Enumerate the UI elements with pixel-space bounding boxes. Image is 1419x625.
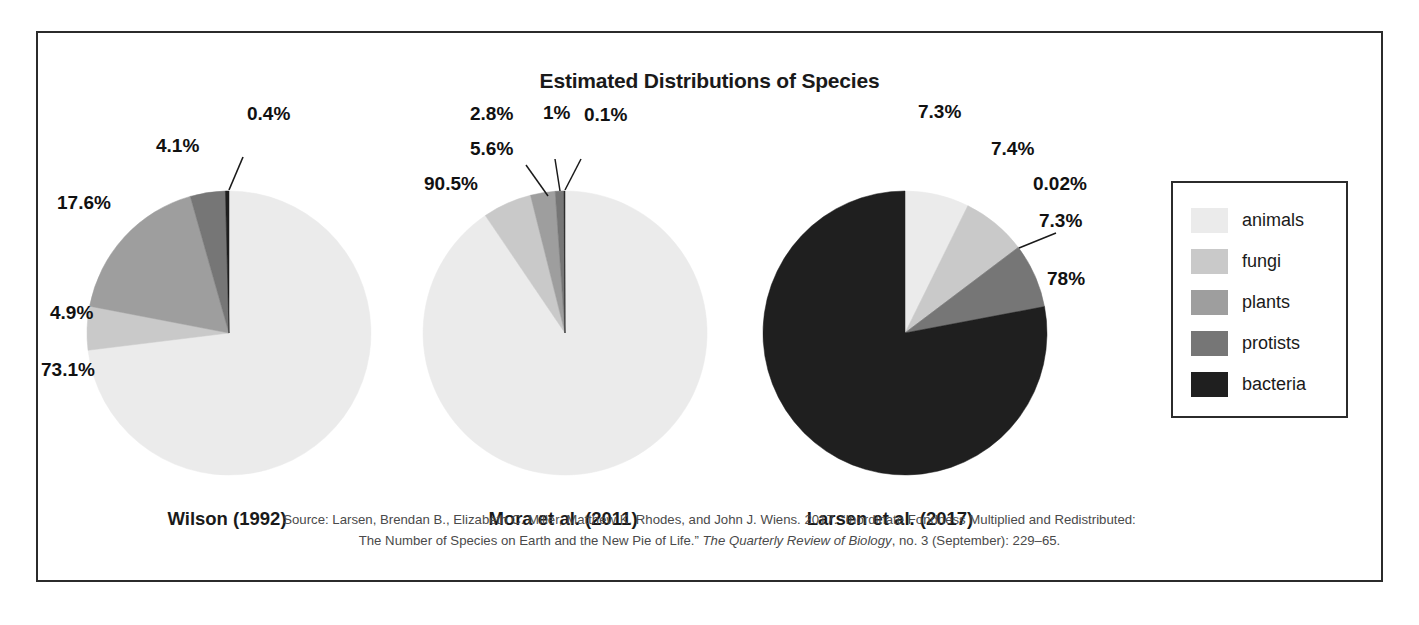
slice-label-protists: 4.1% (156, 135, 199, 157)
source-note: Source: Larsen, Brendan B., Elizabeth C.… (38, 509, 1381, 551)
slice-label-plants: 17.6% (57, 192, 111, 214)
source-note-journal: The Quarterly Review of Biology (703, 533, 892, 548)
legend-swatch-bacteria (1191, 372, 1228, 397)
legend-item-fungi[interactable]: fungi (1191, 241, 1346, 282)
source-note-line2-pre: The Number of Species on Earth and the N… (359, 533, 703, 548)
pie-chart-wilson (62, 93, 392, 503)
slice-label-bacteria: 0.4% (247, 103, 290, 125)
pie-chart-mora (398, 93, 728, 503)
source-note-line2-post: , no. 3 (September): 229–65. (892, 533, 1061, 548)
slice-label-protists: 1% (543, 102, 570, 124)
legend-label-protists: protists (1242, 333, 1300, 354)
slice-label-fungi: 5.6% (470, 138, 513, 160)
slice-label-animals: 73.1% (41, 359, 95, 381)
page-title: Estimated Distributions of Species (38, 69, 1381, 93)
slice-label-bacteria: 78% (1047, 268, 1085, 290)
leader-line-protists (555, 159, 560, 191)
legend-label-fungi: fungi (1242, 251, 1281, 272)
pie-panel-wilson: 0.4% 4.1% 17.6% 4.9% 73.1% Wilson (1992) (62, 93, 392, 538)
source-note-line1: Source: Larsen, Brendan B., Elizabeth C.… (38, 509, 1381, 530)
legend: animals fungi plants protists bacteria (1171, 181, 1348, 418)
legend-swatch-fungi (1191, 249, 1228, 274)
leader-line-plants (526, 165, 548, 196)
source-note-line2: The Number of Species on Earth and the N… (38, 530, 1381, 551)
legend-label-animals: animals (1242, 210, 1304, 231)
pie-panel-larsen: 7.3% 7.4% 0.02% 7.3% 78% Larsen et al. (… (738, 93, 1118, 538)
legend-item-plants[interactable]: plants (1191, 282, 1346, 323)
slice-label-protists: 7.3% (1039, 210, 1082, 232)
slice-label-fungi: 7.4% (991, 138, 1034, 160)
slice-label-fungi: 4.9% (50, 302, 93, 324)
figure-frame: Estimated Distributions of Species 0.4% … (36, 31, 1383, 582)
legend-swatch-protists (1191, 331, 1228, 356)
slice-label-plants: 0.02% (1033, 173, 1087, 195)
leader-line-bacteria (565, 159, 581, 190)
pie-chart-larsen (738, 93, 1118, 503)
leader-line-bacteria (229, 157, 243, 190)
pie-panel-mora: 2.8% 1% 0.1% 5.6% 90.5% Mora et al. (201… (398, 93, 728, 538)
legend-swatch-plants (1191, 290, 1228, 315)
slice-label-animals: 7.3% (918, 101, 961, 123)
slice-label-plants: 2.8% (470, 103, 513, 125)
leader-line-plants (1019, 233, 1056, 248)
legend-label-plants: plants (1242, 292, 1290, 313)
legend-label-bacteria: bacteria (1242, 374, 1306, 395)
slice-label-animals: 90.5% (424, 173, 478, 195)
legend-swatch-animals (1191, 208, 1228, 233)
legend-item-animals[interactable]: animals (1191, 200, 1346, 241)
legend-item-bacteria[interactable]: bacteria (1191, 364, 1346, 405)
legend-item-protists[interactable]: protists (1191, 323, 1346, 364)
slice-label-bacteria: 0.1% (584, 104, 627, 126)
